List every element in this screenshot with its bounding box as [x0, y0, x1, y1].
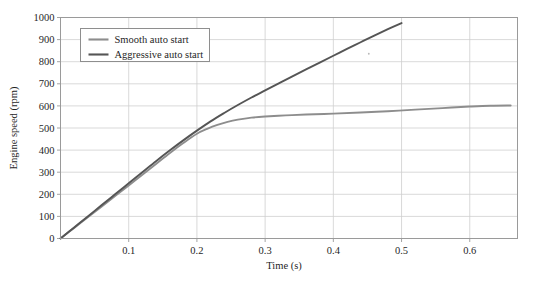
- y-tick-label: 200: [39, 189, 55, 200]
- x-tick-label: 0.4: [327, 245, 341, 256]
- speck-dot: [368, 53, 370, 55]
- y-axis-title: Engine speed (rpm): [8, 86, 20, 169]
- y-tick-label: 800: [39, 56, 55, 67]
- x-tick-label: 0.2: [190, 245, 203, 256]
- engine-speed-line-chart: 01002003004005006007008009001000 0.10.20…: [0, 0, 539, 283]
- y-tick-label: 400: [39, 145, 55, 156]
- legend-entry-label: Aggressive auto start: [115, 49, 204, 60]
- legend-entry-label: Smooth auto start: [115, 34, 189, 45]
- x-tick-label: 0.1: [122, 245, 135, 256]
- y-tick-label: 900: [39, 34, 55, 45]
- chart-figure: 01002003004005006007008009001000 0.10.20…: [0, 0, 539, 283]
- chart-legend[interactable]: Smooth auto startAggressive auto start: [81, 29, 210, 62]
- x-tick-label: 0.5: [395, 245, 408, 256]
- y-tick-label: 1000: [34, 12, 55, 23]
- y-tick-label: 300: [39, 167, 55, 178]
- x-axis-title: Time (s): [266, 260, 302, 272]
- y-tick-label: 700: [39, 78, 55, 89]
- y-tick-label: 100: [39, 211, 55, 222]
- y-tick-label: 0: [49, 233, 54, 244]
- y-tick-label: 500: [39, 123, 55, 134]
- artifact-speck: [368, 53, 370, 55]
- x-tick-label: 0.6: [463, 245, 476, 256]
- x-tick-label: 0.3: [259, 245, 272, 256]
- y-tick-label: 600: [39, 101, 55, 112]
